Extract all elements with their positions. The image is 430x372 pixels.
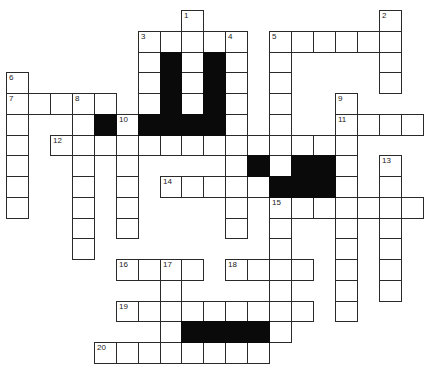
answer-cell[interactable]: 6 — [6, 72, 29, 94]
answer-cell[interactable] — [225, 218, 248, 239]
answer-cell[interactable]: 9 — [335, 93, 358, 115]
answer-cell[interactable] — [225, 155, 248, 177]
answer-cell[interactable] — [379, 259, 402, 281]
answer-cell[interactable] — [357, 197, 380, 219]
answer-cell[interactable] — [335, 31, 358, 53]
answer-cell[interactable] — [28, 93, 51, 115]
answer-cell[interactable] — [72, 197, 95, 219]
answer-cell[interactable] — [247, 259, 270, 281]
answer-cell[interactable]: 5 — [269, 31, 292, 53]
answer-cell[interactable] — [116, 176, 139, 198]
answer-cell[interactable] — [181, 72, 204, 94]
answer-cell[interactable] — [203, 176, 226, 198]
answer-cell[interactable] — [203, 135, 226, 156]
answer-cell[interactable] — [160, 301, 182, 322]
answer-cell[interactable] — [94, 135, 117, 156]
answer-cell[interactable]: 12 — [50, 135, 73, 156]
answer-cell[interactable] — [6, 155, 29, 177]
answer-cell[interactable]: 1 — [181, 10, 204, 32]
answer-cell[interactable] — [269, 321, 292, 343]
answer-cell[interactable] — [181, 301, 204, 322]
answer-cell[interactable] — [225, 176, 248, 198]
answer-cell[interactable] — [313, 135, 336, 156]
answer-cell[interactable] — [50, 93, 73, 115]
answer-cell[interactable]: 17 — [160, 259, 182, 281]
answer-cell[interactable] — [357, 114, 380, 136]
answer-cell[interactable] — [379, 72, 402, 94]
answer-cell[interactable] — [181, 342, 204, 364]
answer-cell[interactable] — [72, 218, 95, 239]
answer-cell[interactable] — [269, 135, 292, 156]
answer-cell[interactable] — [379, 114, 402, 136]
answer-cell[interactable] — [225, 114, 248, 136]
answer-cell[interactable] — [160, 342, 182, 364]
answer-cell[interactable] — [379, 176, 402, 198]
answer-cell[interactable] — [138, 342, 161, 364]
answer-cell[interactable] — [313, 31, 336, 53]
answer-cell[interactable]: 7 — [6, 93, 29, 115]
answer-cell[interactable]: 3 — [138, 31, 161, 53]
answer-cell[interactable] — [138, 93, 161, 115]
answer-cell[interactable] — [247, 342, 270, 364]
answer-cell[interactable]: 11 — [335, 114, 358, 136]
answer-cell[interactable] — [160, 31, 182, 53]
answer-cell[interactable] — [269, 52, 292, 73]
answer-cell[interactable] — [401, 197, 424, 219]
answer-cell[interactable] — [181, 176, 204, 198]
answer-cell[interactable]: 4 — [225, 31, 248, 53]
answer-cell[interactable]: 20 — [94, 342, 117, 364]
answer-cell[interactable] — [335, 259, 358, 281]
answer-cell[interactable] — [335, 218, 358, 239]
answer-cell[interactable] — [335, 197, 358, 219]
answer-cell[interactable]: 13 — [379, 155, 402, 177]
answer-cell[interactable] — [269, 114, 292, 136]
answer-cell[interactable] — [291, 259, 314, 281]
answer-cell[interactable] — [225, 301, 248, 322]
answer-cell[interactable] — [6, 176, 29, 198]
answer-cell[interactable] — [379, 280, 402, 302]
answer-cell[interactable] — [269, 72, 292, 94]
answer-cell[interactable] — [138, 135, 161, 156]
answer-cell[interactable] — [247, 301, 270, 322]
answer-cell[interactable] — [335, 135, 358, 156]
answer-cell[interactable] — [247, 135, 270, 156]
answer-cell[interactable] — [116, 155, 139, 177]
answer-cell[interactable]: 2 — [379, 10, 402, 32]
answer-cell[interactable] — [6, 114, 29, 136]
answer-cell[interactable] — [138, 72, 161, 94]
answer-cell[interactable] — [379, 31, 402, 53]
answer-cell[interactable] — [94, 93, 117, 115]
answer-cell[interactable] — [181, 135, 204, 156]
answer-cell[interactable] — [160, 321, 182, 343]
answer-cell[interactable] — [335, 238, 358, 260]
answer-cell[interactable] — [72, 114, 95, 136]
answer-cell[interactable] — [269, 93, 292, 115]
answer-cell[interactable] — [335, 155, 358, 177]
answer-cell[interactable]: 8 — [72, 93, 95, 115]
answer-cell[interactable] — [225, 52, 248, 73]
answer-cell[interactable]: 19 — [116, 301, 139, 322]
answer-cell[interactable] — [72, 155, 95, 177]
answer-cell[interactable] — [401, 114, 424, 136]
answer-cell[interactable] — [247, 176, 270, 198]
answer-cell[interactable] — [181, 259, 204, 281]
answer-cell[interactable] — [116, 197, 139, 219]
answer-cell[interactable] — [116, 218, 139, 239]
answer-cell[interactable] — [379, 218, 402, 239]
answer-cell[interactable] — [203, 31, 226, 53]
answer-cell[interactable]: 18 — [225, 259, 248, 281]
answer-cell[interactable] — [160, 280, 182, 302]
answer-cell[interactable] — [379, 52, 402, 73]
answer-cell[interactable] — [6, 135, 29, 156]
answer-cell[interactable] — [138, 52, 161, 73]
answer-cell[interactable] — [335, 176, 358, 198]
answer-cell[interactable]: 16 — [116, 259, 139, 281]
answer-cell[interactable] — [181, 93, 204, 115]
answer-cell[interactable] — [138, 259, 161, 281]
answer-cell[interactable] — [291, 135, 314, 156]
answer-cell[interactable] — [116, 342, 139, 364]
answer-cell[interactable] — [203, 342, 226, 364]
answer-cell[interactable] — [379, 197, 402, 219]
answer-cell[interactable] — [181, 31, 204, 53]
answer-cell[interactable] — [291, 301, 314, 322]
